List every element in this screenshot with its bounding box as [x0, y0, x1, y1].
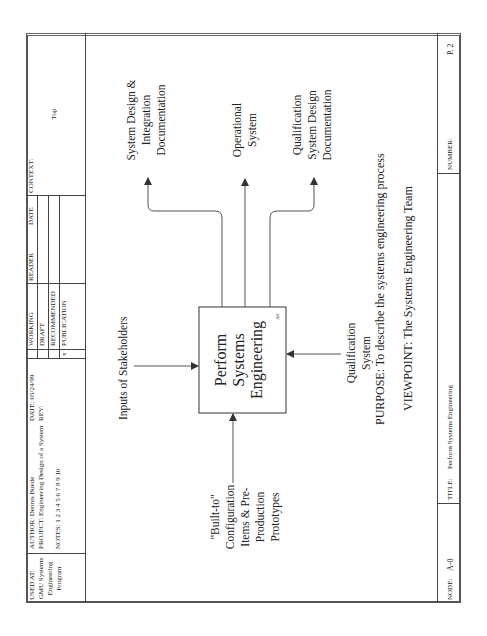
activity-title-line: Systems — [230, 307, 248, 413]
control-label: Inputs of Stakeholders — [116, 317, 131, 420]
output-label-1: System Design & Integration Documentatio… — [124, 65, 169, 175]
mechanism-label: Qualification System — [344, 308, 374, 398]
node-label: NODE: — [446, 579, 454, 600]
footer-block: NODE: A-0 TITLE: Perform Systems Enginee… — [437, 33, 461, 603]
activity-title-line: Engineering — [248, 307, 266, 413]
output-arrow-1 — [148, 178, 222, 307]
node-cell: NODE: A-0 — [438, 503, 460, 603]
purpose-text: PURPOSE: To describe the systems enginee… — [373, 153, 388, 425]
input-label-line: Items & Pre- — [238, 477, 253, 557]
output-label-line: Qualification — [290, 75, 305, 175]
node-value: A-0 — [446, 559, 455, 571]
input-label-line: Configuration — [223, 477, 238, 557]
idef0-page: USED AT: GMU Systems Engineering Program… — [26, 33, 461, 603]
viewpoint-text: VIEWPOINT: The Systems Engineering Team — [401, 186, 416, 411]
output-label-line: Integration — [139, 65, 154, 175]
input-label-line: Prototypes — [268, 477, 283, 557]
input-label-line: Production — [253, 477, 268, 557]
activity-title: Perform Systems Engineering — [212, 307, 266, 413]
output-label-line: System — [245, 85, 260, 175]
input-label: "Built-to" Configuration Items & Pre- Pr… — [208, 477, 283, 557]
output-arrow-3 — [270, 178, 314, 307]
number-value: P. 2 — [446, 43, 455, 55]
title-cell: TITLE: Perform Systems Engineering — [438, 173, 460, 503]
number-label: NUMBER: — [446, 138, 454, 170]
activity-title-line: Perform — [212, 307, 230, 413]
input-label-line: "Built-to" — [208, 477, 223, 557]
title-label: TITLE: — [446, 479, 454, 500]
node-id: A0 — [275, 314, 280, 320]
output-label-line: Documentation — [320, 75, 335, 175]
title-value: Perform Systems Engineering — [446, 385, 454, 469]
output-label-line: System Design — [305, 75, 320, 175]
output-label-2: Operational System — [230, 85, 260, 175]
output-label-3: Qualification System Design Documentatio… — [290, 75, 335, 175]
output-label-line: Operational — [230, 85, 245, 175]
output-label-line: System Design & — [124, 65, 139, 175]
mechanism-label-line: System — [359, 308, 374, 398]
mechanism-label-line: Qualification — [344, 308, 359, 398]
number-cell: NUMBER: P. 2 — [438, 33, 460, 173]
output-label-line: Documentation — [154, 65, 169, 175]
